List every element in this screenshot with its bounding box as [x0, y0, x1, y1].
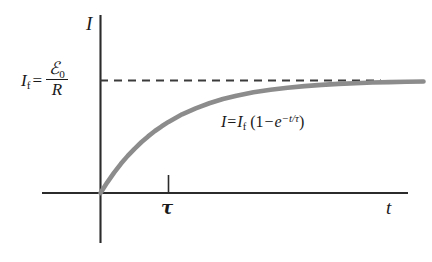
emf-symbol: ℰ: [49, 60, 59, 77]
figure-rl-current-growth: I t τ If = ℰ0 R I = If (1−e−t/τ): [0, 0, 432, 262]
exponent-tau: τ: [295, 112, 299, 124]
equation-one: 1: [256, 114, 264, 130]
equation-lhs-symbol: I: [221, 114, 226, 130]
x-axis-label: t: [386, 198, 391, 217]
final-current-subscript: f: [27, 80, 31, 91]
equals-sign: =: [32, 72, 42, 89]
equation-exp-base: e: [275, 114, 282, 130]
curve-equation-label: I = If (1−e−t/τ): [221, 114, 304, 130]
equation-exponent: −t/τ: [282, 113, 299, 124]
fraction-denominator: R: [50, 80, 64, 98]
fraction-numerator: ℰ0: [47, 60, 67, 78]
equation-minus-sign: −: [265, 114, 274, 130]
equation-rhs-subscript: f: [243, 122, 247, 133]
equation-equals-sign: =: [227, 114, 236, 130]
exponent-minus-sign: −: [282, 112, 289, 124]
y-axis-label: I: [86, 14, 92, 33]
plot-canvas: [0, 0, 432, 262]
final-current-symbol: If: [21, 72, 30, 89]
current-growth-curve: [101, 82, 424, 193]
final-current-label: If = ℰ0 R: [21, 60, 69, 100]
equation-close-paren: ): [299, 114, 304, 130]
emf-over-resistance-fraction: ℰ0 R: [46, 60, 68, 98]
emf-subscript: 0: [59, 69, 65, 80]
x-tick-label-tau: τ: [161, 199, 173, 217]
